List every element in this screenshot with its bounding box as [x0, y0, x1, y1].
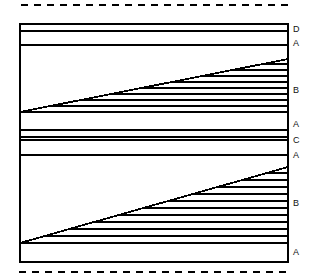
edge-label-c-mid: C — [293, 136, 300, 145]
edge-label-b-lower: B — [293, 199, 299, 208]
figure-root: D A B A C A B A — [0, 0, 311, 280]
edge-label-a-mid-2: A — [293, 151, 299, 160]
edge-label-b-upper: B — [293, 86, 299, 95]
figure-canvas — [0, 0, 311, 280]
edge-label-a-upper: A — [293, 39, 299, 48]
edge-label-d-top: D — [293, 25, 300, 34]
edge-label-a-mid-1: A — [293, 120, 299, 129]
edge-label-a-bottom: A — [293, 248, 299, 257]
